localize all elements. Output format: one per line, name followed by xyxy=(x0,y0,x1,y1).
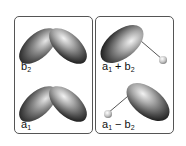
label-b2: b2 xyxy=(21,61,31,73)
right-panel: a1 + b2 a1 − b2 xyxy=(95,16,174,134)
label-a1-minus-b2: a1 − b2 xyxy=(102,119,135,131)
label-a1-plus-b2: a1 + b2 xyxy=(102,61,135,73)
orbital-cell-a1-plus-b2: a1 + b2 xyxy=(96,17,173,76)
label-a1: a1 xyxy=(21,119,31,131)
orbital-cell-a1: a1 xyxy=(15,75,92,134)
orbital-cell-a1-minus-b2: a1 − b2 xyxy=(96,75,173,134)
left-panel: b2 a1 xyxy=(14,16,93,134)
orbital-cell-b2: b2 xyxy=(15,17,92,76)
